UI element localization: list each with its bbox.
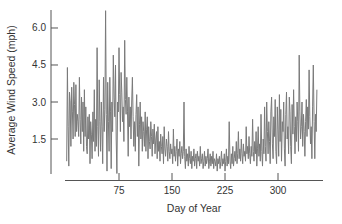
y-tick-label: 6.0	[32, 22, 46, 33]
y-axis-title: Average Wind Speed (mph)	[5, 25, 17, 154]
x-tick-label: 300	[270, 185, 287, 196]
x-axis-title: Day of Year	[167, 202, 222, 214]
wind-speed-line	[67, 11, 317, 174]
y-tick-label: 3.0	[32, 97, 46, 108]
y-tick-label: 4.5	[32, 59, 46, 70]
line-chart: 1.53.04.56.0 75150225300 Day of Year Ave…	[0, 0, 342, 224]
y-tick-label: 1.5	[32, 134, 46, 145]
x-ticks: 75150225300	[113, 173, 286, 196]
x-tick-label: 150	[164, 185, 181, 196]
x-tick-label: 75	[113, 185, 125, 196]
x-tick-label: 225	[217, 185, 234, 196]
y-ticks: 1.53.04.56.0	[32, 22, 58, 144]
